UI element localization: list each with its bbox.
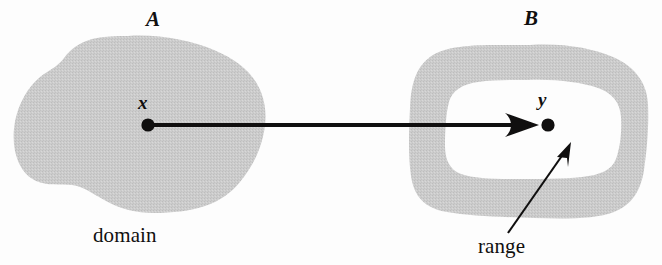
point-x-dot (141, 118, 154, 131)
point-y-dot (541, 118, 554, 131)
figure-container: A B x y domain range (0, 0, 662, 265)
domain-caption: domain (93, 225, 157, 246)
point-label-x: x (138, 93, 148, 112)
set-label-b: B (524, 8, 538, 29)
set-label-a: A (146, 9, 160, 30)
point-label-y: y (538, 90, 546, 109)
range-caption: range (478, 236, 525, 257)
